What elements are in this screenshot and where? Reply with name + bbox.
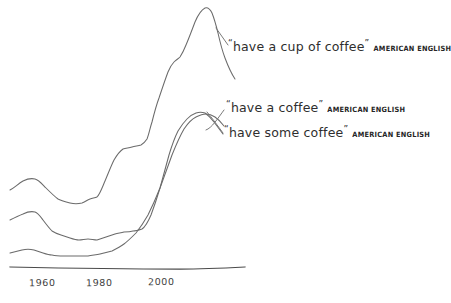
annotation-phrase-text: have a coffee <box>231 100 319 115</box>
annotation-phrase-text: have a cup of coffee <box>233 39 365 54</box>
annotation-have-a-cup-of-coffee: “have a cup of coffee” AMERICAN ENGLISH <box>228 38 451 54</box>
x-axis-line <box>10 267 245 269</box>
x-axis-tick-2000: 2000 <box>148 276 175 287</box>
annotation-phrase: “have a cup of coffee” <box>228 38 369 54</box>
close-quote-glyph: ” <box>343 124 348 134</box>
close-quote-glyph: ” <box>318 99 323 109</box>
annotation-corpus-label: AMERICAN ENGLISH <box>373 45 451 54</box>
annotation-have-some-coffee: “have some coffee” AMERICAN ENGLISH <box>224 124 430 140</box>
annotation-corpus-label: AMERICAN ENGLISH <box>327 106 405 115</box>
leader-line-have-a-coffee <box>206 110 224 130</box>
annotation-corpus-label: AMERICAN ENGLISH <box>352 131 430 140</box>
annotation-phrase: “have some coffee” <box>224 124 348 140</box>
close-quote-glyph: ” <box>365 38 370 48</box>
annotation-phrase: “have a coffee” <box>226 99 323 115</box>
series-line-have-a-coffee <box>10 112 223 240</box>
x-axis-tick-1960: 1960 <box>29 277 56 288</box>
leader-line-have-a-cup-of-coffee <box>216 28 228 45</box>
annotation-phrase-text: have some coffee <box>229 125 344 140</box>
series-line-have-some-coffee <box>10 114 224 256</box>
annotation-have-a-coffee: “have a coffee” AMERICAN ENGLISH <box>226 99 405 115</box>
x-axis-tick-1980: 1980 <box>86 277 113 288</box>
series-line-have-a-cup-of-coffee <box>10 8 235 204</box>
